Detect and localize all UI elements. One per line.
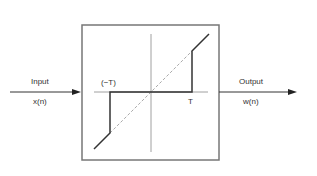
output-label: Output xyxy=(239,78,263,86)
input-signal-label: x(n) xyxy=(33,98,47,106)
diagram-canvas xyxy=(0,0,317,176)
neg-threshold-label: (−T) xyxy=(101,79,116,87)
input-arrow xyxy=(10,89,81,95)
output-signal-label: w(n) xyxy=(243,98,259,106)
output-arrow xyxy=(219,89,297,95)
input-label: Input xyxy=(31,78,49,86)
pos-threshold-label: T xyxy=(188,98,193,106)
